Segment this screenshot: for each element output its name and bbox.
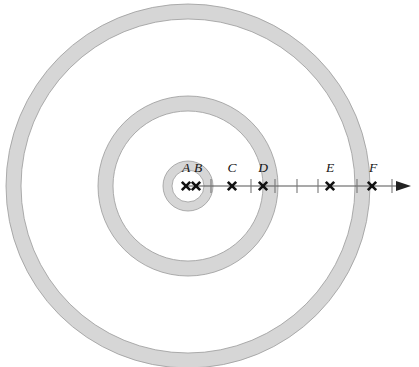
point-label-b: B <box>194 160 202 175</box>
point-label-c: C <box>227 160 237 175</box>
point-labels: A B C D E F <box>181 160 378 175</box>
point-label-d: D <box>257 160 268 175</box>
axis-group <box>188 179 411 193</box>
axis-arrow-icon <box>396 181 411 191</box>
concentric-rings-diagram: A B C D E F <box>0 0 419 367</box>
point-label-a: A <box>181 160 191 175</box>
point-label-f: F <box>368 160 378 175</box>
point-label-e: E <box>325 160 335 175</box>
figure-canvas: A B C D E F <box>0 0 419 367</box>
